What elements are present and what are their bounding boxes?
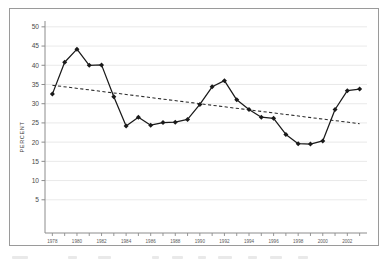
x-axis-tick-labels: 1978198019821984198619881990199219941996… — [47, 239, 353, 244]
svg-text:1982: 1982 — [96, 239, 107, 244]
svg-text:1984: 1984 — [121, 239, 132, 244]
svg-text:1988: 1988 — [170, 239, 181, 244]
svg-text:1996: 1996 — [268, 239, 279, 244]
trend-line — [52, 85, 359, 123]
y-axis-tick-labels: 5101520253035404550 — [32, 23, 40, 203]
svg-text:5: 5 — [35, 196, 39, 203]
svg-text:1978: 1978 — [47, 239, 58, 244]
svg-text:1980: 1980 — [72, 239, 83, 244]
y-axis-ticks — [42, 27, 46, 200]
svg-text:1994: 1994 — [244, 239, 255, 244]
svg-text:1990: 1990 — [195, 239, 206, 244]
svg-text:50: 50 — [32, 23, 40, 30]
data-line — [52, 49, 359, 144]
svg-text:45: 45 — [32, 42, 40, 49]
svg-text:40: 40 — [32, 62, 40, 69]
chart-frame: 5101520253035404550 19781980198219841986… — [9, 8, 379, 246]
svg-text:25: 25 — [32, 119, 40, 126]
svg-text:15: 15 — [32, 158, 40, 165]
svg-text:1998: 1998 — [293, 239, 304, 244]
svg-text:2000: 2000 — [318, 239, 329, 244]
svg-text:30: 30 — [32, 100, 40, 107]
svg-text:1992: 1992 — [219, 239, 230, 244]
y-axis-title: PERCENT — [19, 122, 25, 153]
caption-text-band — [12, 253, 342, 262]
figure: 5101520253035404550 19781980198219841986… — [0, 0, 389, 266]
svg-text:1986: 1986 — [146, 239, 157, 244]
svg-text:2002: 2002 — [342, 239, 353, 244]
gridlines — [45, 27, 367, 200]
svg-text:35: 35 — [32, 81, 40, 88]
svg-text:10: 10 — [32, 177, 40, 184]
chart-plot: 5101520253035404550 19781980198219841986… — [10, 9, 378, 245]
svg-text:20: 20 — [32, 139, 40, 146]
